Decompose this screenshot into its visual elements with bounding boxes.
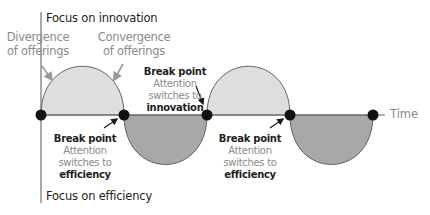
break-point-line2: switches to [215, 157, 285, 169]
top-axis-label: Focus on innovation [46, 12, 157, 25]
break-point-dot [36, 110, 47, 121]
time-label: Time [390, 108, 418, 121]
break-point-arrow-icon [270, 119, 283, 128]
break-point-line1: Attention [140, 78, 210, 90]
break-point-line1: Attention [215, 145, 285, 157]
efficiency-arch-2 [290, 115, 373, 165]
efficiency-arch-1 [124, 115, 207, 165]
break-point-title: Break point [215, 133, 285, 145]
break-point-title: Break point [50, 133, 120, 145]
divergence-label: Divergence of offerings [2, 31, 74, 58]
break-point-label-1: Break point Attention switches to effici… [50, 133, 120, 181]
break-point-line1: Attention [50, 145, 120, 157]
convergence-label-line1: Convergence [94, 31, 174, 45]
innovation-arch-2 [207, 66, 290, 115]
convergence-label: Convergence of offerings [94, 31, 174, 58]
divergence-arrow-icon [42, 66, 52, 80]
break-point-target: efficiency [215, 169, 285, 181]
innovation-arch-1 [41, 66, 124, 115]
convergence-arrow-icon [114, 64, 123, 80]
break-point-line2: switches to [140, 90, 210, 102]
bottom-axis-label: Focus on efficiency [46, 190, 152, 203]
break-point-label-3: Break point Attention switches to effici… [215, 133, 285, 181]
convergence-label-line2: of offerings [94, 45, 174, 59]
divergence-label-line2: of offerings [2, 45, 74, 59]
break-point-arrow-icon [104, 119, 117, 128]
break-point-label-2: Break point Attention switches to innova… [140, 66, 210, 114]
break-point-line2: switches to [50, 157, 120, 169]
break-point-dot [119, 110, 130, 121]
break-point-target: innovation [140, 102, 210, 114]
divergence-label-line1: Divergence [2, 31, 74, 45]
break-point-dot [285, 110, 296, 121]
break-point-title: Break point [140, 66, 210, 78]
break-point-target: efficiency [50, 169, 120, 181]
break-point-dot [368, 110, 379, 121]
